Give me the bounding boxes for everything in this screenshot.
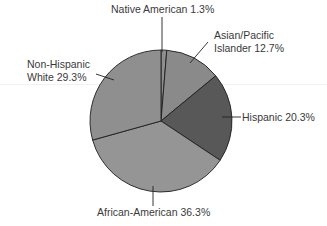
label-asian-line2: Islander 12.7% xyxy=(214,42,284,55)
label-native-american: Native American 1.3% xyxy=(111,3,214,16)
pie-slices xyxy=(90,50,232,192)
label-white-line2: White 29.3% xyxy=(27,71,87,84)
label-asian-line1: Asian/Pacific xyxy=(214,29,274,42)
label-white-line1: Non-Hispanic xyxy=(27,58,90,71)
leader-asian xyxy=(190,42,208,63)
label-hispanic: Hispanic 20.3% xyxy=(242,111,315,124)
label-african-american: African-American 36.3% xyxy=(97,206,210,219)
